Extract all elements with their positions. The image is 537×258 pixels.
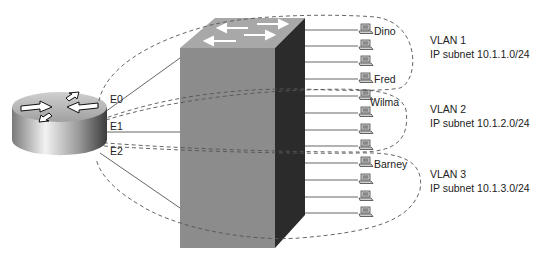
vlan3-name: VLAN 3 — [430, 168, 466, 180]
hosts — [359, 24, 373, 217]
vlan-diagram: E0 E1 E2 Dino Fred Wilma Barney — [0, 0, 537, 258]
pc-icon — [359, 24, 373, 34]
pc-icon — [359, 107, 373, 117]
host-label-wilma: Wilma — [370, 96, 399, 108]
switch-front-face — [180, 48, 275, 248]
vlan1-name: VLAN 1 — [430, 34, 466, 46]
pc-icon — [359, 191, 373, 201]
pc-icon — [359, 73, 373, 83]
host-label-barney: Barney — [374, 158, 408, 170]
vlan3-subnet: IP subnet 10.1.3.0/24 — [430, 182, 530, 194]
host-label-dino: Dino — [374, 25, 396, 37]
vlan2-subnet: IP subnet 10.1.2.0/24 — [430, 117, 530, 129]
router-links — [100, 58, 180, 208]
switch — [180, 18, 305, 248]
host-label-fred: Fred — [374, 73, 396, 85]
pc-icon — [359, 140, 373, 150]
interface-label-e1: E1 — [110, 120, 123, 132]
pc-icon — [359, 157, 373, 167]
vlan2-name: VLAN 2 — [430, 103, 466, 115]
pc-icon — [359, 56, 373, 66]
pc-icon — [359, 207, 373, 217]
switch-side-face — [275, 18, 305, 248]
host-links — [305, 30, 358, 213]
pc-icon — [359, 174, 373, 184]
pc-icon — [359, 124, 373, 134]
link-e2 — [100, 153, 180, 208]
interface-label-e0: E0 — [110, 93, 123, 105]
pc-icon — [359, 40, 373, 50]
router-icon — [12, 92, 107, 155]
vlan1-subnet: IP subnet 10.1.1.0/24 — [430, 48, 530, 60]
vlan-labels: VLAN 1 IP subnet 10.1.1.0/24 VLAN 2 IP s… — [430, 34, 530, 194]
